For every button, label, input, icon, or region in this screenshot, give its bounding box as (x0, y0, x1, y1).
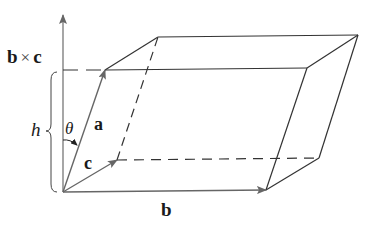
parallelepiped-figure: b×c h θ a c b (0, 0, 369, 237)
vector-a-label: a (94, 114, 103, 134)
height-brace (46, 72, 57, 192)
vector-b-label: b (161, 199, 172, 220)
edge-top-right (307, 35, 358, 68)
theta-arc (63, 140, 77, 145)
edge-bottom-right (266, 158, 319, 190)
vector-c-label: c (84, 153, 92, 173)
edge-front-right (266, 68, 307, 190)
cross-product-label: b×c (7, 46, 42, 67)
height-label: h (31, 119, 41, 140)
edge-top-left (105, 37, 158, 70)
edge-top-back (158, 35, 358, 37)
edge-back-left-hidden (117, 37, 158, 160)
edge-bottom-back-hidden (117, 158, 319, 160)
vector-b-arrow (63, 190, 266, 192)
edge-top-front (105, 68, 307, 70)
parallelepiped-diagram: b×c h θ a c b (0, 0, 369, 237)
theta-label: θ (65, 119, 73, 138)
edge-back-right (319, 35, 358, 158)
